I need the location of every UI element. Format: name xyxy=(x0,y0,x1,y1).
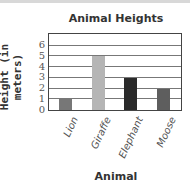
y-tick: 0 xyxy=(33,105,45,115)
y-tick: 4 xyxy=(33,62,45,72)
x-tick-label: Lion xyxy=(49,115,80,165)
x-tick-label: Moose xyxy=(147,115,178,165)
x-axis-label: Animal xyxy=(48,170,184,183)
y-tick: 5 xyxy=(33,51,45,61)
x-tick-label: Elephant xyxy=(114,115,145,165)
x-tick-label: Giraffe xyxy=(81,115,112,165)
gridline xyxy=(49,66,181,67)
bar-lion xyxy=(59,99,72,110)
top-border xyxy=(0,0,190,3)
y-tick: 6 xyxy=(33,40,45,50)
y-tick: 1 xyxy=(33,94,45,104)
gridline xyxy=(49,45,181,46)
y-axis-label: Height (in meters) xyxy=(0,22,24,132)
chart-title: Animal Heights xyxy=(48,12,184,25)
bar-elephant xyxy=(124,78,137,110)
bar-giraffe xyxy=(92,56,105,110)
y-tick: 3 xyxy=(33,72,45,82)
bar-moose xyxy=(157,89,170,110)
y-tick: 2 xyxy=(33,83,45,93)
gridline xyxy=(49,55,181,56)
gridline xyxy=(49,77,181,78)
plot-area xyxy=(48,33,182,111)
